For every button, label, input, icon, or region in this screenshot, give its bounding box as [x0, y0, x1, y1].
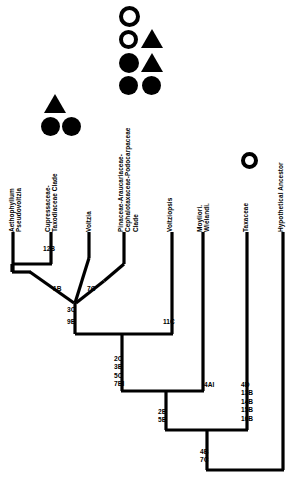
node-label-3c: 3C — [67, 306, 75, 314]
branch-node-1b — [30, 272, 74, 303]
node-label-2b-group: 2B 5B — [158, 408, 166, 425]
node-label-9b: 9B — [67, 318, 75, 326]
node-label-12b: 12B — [43, 245, 55, 253]
node-label-2c-group: 2C 3B 5C 7BI — [114, 355, 124, 389]
cladogram-figure: Aethophyllum Pseudovoltzia Cupressaceae-… — [0, 0, 294, 481]
node-label-1b: 1B — [53, 285, 61, 293]
branch-node-7c-upper — [104, 264, 124, 281]
node-label-11c: 11C — [163, 318, 175, 326]
node-label-4b-group: 4B 7C — [200, 448, 208, 465]
node-label-7c-upper: 7C — [87, 285, 95, 293]
node-label-4ai: 4AI — [204, 381, 214, 389]
node-label-4d-group: 4D 13B 14B 15B 16B — [241, 381, 253, 423]
